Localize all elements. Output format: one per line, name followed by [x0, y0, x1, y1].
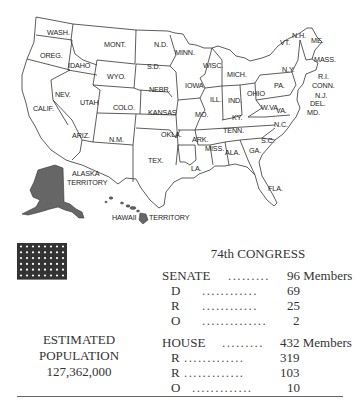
house-row-1: R ............. 319 [162, 350, 360, 365]
state-label: MINN. [175, 48, 195, 57]
flag-star [38, 245, 40, 247]
party-label: R [171, 350, 180, 365]
flag-star [26, 257, 28, 259]
flag-star [26, 274, 28, 276]
us-flag-48-stars [17, 243, 141, 311]
state-label: ILL. [210, 95, 222, 104]
congress-block: 74th CONGRESS SENATE ......... 96 Member… [162, 246, 360, 395]
state-label: FLA. [268, 184, 283, 193]
state-label: PA. [274, 81, 285, 90]
state-label: CONN. [312, 81, 335, 90]
flag-star [26, 245, 28, 247]
state-label: OREG. [40, 51, 63, 60]
party-label: D [171, 283, 180, 298]
flag-star [38, 263, 40, 265]
senate-total: 96 Members [287, 268, 352, 283]
state-label: MICH. [227, 70, 247, 79]
flag-star [32, 245, 34, 247]
flag-star [26, 251, 28, 253]
state-label: KY. [232, 113, 242, 122]
flag-star [44, 257, 46, 259]
flag-star [44, 251, 46, 253]
state-label: COLO. [113, 103, 135, 112]
flag-star [56, 245, 58, 247]
territory-label: ALASKA [72, 169, 100, 178]
state-label: MO. [195, 110, 208, 119]
leader-dots: ......... [222, 335, 264, 350]
house-total-row: HOUSE ......... 432 Members [162, 335, 360, 350]
state-label: N.Y. [282, 65, 295, 74]
state-label: VT. [280, 38, 290, 47]
flag-star [26, 263, 28, 265]
state-label: N.M. [109, 135, 124, 144]
leader-dots: ............ [202, 283, 258, 298]
seat-count: 69 [287, 283, 300, 298]
leader-dots: ............. [192, 380, 252, 395]
flag-star [20, 251, 22, 253]
state-label: N.D. [154, 40, 168, 49]
state-label: WYO. [107, 72, 126, 81]
house-total: 432 Members [280, 335, 352, 350]
party-label: R [171, 365, 180, 380]
flag-star [44, 263, 46, 265]
party-label: O [171, 380, 180, 395]
leader-dots: .............. [202, 313, 267, 328]
flag-star [20, 263, 22, 265]
state-label: GA. [249, 146, 261, 155]
population-line2: POPULATION [0, 348, 158, 364]
senate-total-row: SENATE ......... 96 Members [162, 268, 360, 283]
state-label: MISS. [205, 144, 224, 153]
state-label: NEBR. [149, 85, 171, 94]
flag-star [44, 245, 46, 247]
state-label: N.C. [274, 120, 288, 129]
flag-star [44, 269, 46, 271]
flag-star [50, 263, 52, 265]
state-label: CALIF. [33, 104, 54, 113]
house-label: HOUSE [162, 335, 205, 350]
flag-star [62, 269, 64, 271]
state-label: MONT. [104, 40, 126, 49]
congress-title: 74th CONGRESS [156, 246, 360, 262]
population-line1: ESTIMATED [0, 332, 158, 348]
state-label: IND. [228, 96, 242, 105]
flag-star [38, 251, 40, 253]
flag-star [56, 263, 58, 265]
flag-star [32, 251, 34, 253]
us-map: WASH.OREG.IDAHOMONT.N.D.MINN.S.D.WYO.NEB… [0, 0, 360, 240]
flag-star [38, 269, 40, 271]
seat-count: 10 [287, 380, 300, 395]
flag-star [50, 245, 52, 247]
flag-star [62, 245, 64, 247]
seat-count: 2 [293, 313, 300, 328]
flag-star [50, 251, 52, 253]
state-label: VA. [276, 106, 287, 115]
state-label: WISC. [203, 61, 223, 70]
flag-star [56, 269, 58, 271]
flag-star [56, 251, 58, 253]
senate-row-o: O .............. 2 [162, 313, 360, 328]
state-label: ARIZ. [72, 131, 90, 140]
flag-star [32, 269, 34, 271]
flag-star [26, 269, 28, 271]
flag-star [44, 274, 46, 276]
state-label: TEX. [148, 156, 164, 165]
state-label: ME. [311, 36, 324, 45]
flag-star [50, 274, 52, 276]
state-label: DEL. [310, 99, 326, 108]
state-label: ALA. [225, 148, 240, 157]
state-label: OHIO [247, 89, 265, 98]
state-label: UTAH [80, 98, 99, 107]
population-block: ESTIMATED POPULATION 127,362,000 [0, 332, 158, 380]
seat-count: 103 [280, 365, 300, 380]
flag-star [20, 269, 22, 271]
state-label: LA. [191, 164, 202, 173]
party-label: R [171, 298, 180, 313]
state-label: MD. [307, 108, 320, 117]
territory-label: HAWAII [112, 213, 137, 222]
leader-dots: ............ [202, 298, 258, 313]
state-label: KANSAS [148, 108, 177, 117]
state-label: IDAHO [68, 61, 91, 70]
leader-dots: ............. [184, 350, 244, 365]
senate-label: SENATE [162, 268, 210, 283]
state-label: WASH. [47, 28, 70, 37]
